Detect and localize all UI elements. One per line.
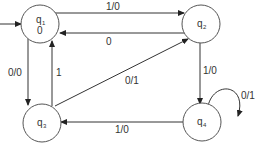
edge-label-q3-q2: 0/1 <box>125 75 139 86</box>
edge-label-q3-q1: 1 <box>56 67 62 78</box>
svg-text:q: q <box>37 117 43 128</box>
svg-text:q: q <box>36 14 42 25</box>
edge-label-q4-q3: 1/0 <box>115 124 129 135</box>
edge-label-q2-q1: 0 <box>106 36 112 47</box>
edge-label-q2-q4: 1/0 <box>203 65 217 76</box>
state-q2: q 2 <box>182 5 220 43</box>
edge-q3-q2 <box>55 39 188 106</box>
state-q1-output: 0 <box>37 25 43 36</box>
state-q4: q 4 <box>183 103 221 141</box>
state-q1: q 1 0 <box>21 5 59 43</box>
state-q3: q 3 <box>23 104 61 142</box>
svg-text:q: q <box>197 18 203 29</box>
state-diagram: 1/0 0 0/0 1 0/1 1/0 0/1 1/0 q 1 0 q 2 q … <box>0 0 262 143</box>
edge-label-q1-q3: 0/0 <box>8 67 22 78</box>
svg-text:q: q <box>197 116 203 127</box>
edge-label-q4-q4: 0/1 <box>241 90 255 101</box>
edge-label-q1-q2: 1/0 <box>106 1 120 12</box>
